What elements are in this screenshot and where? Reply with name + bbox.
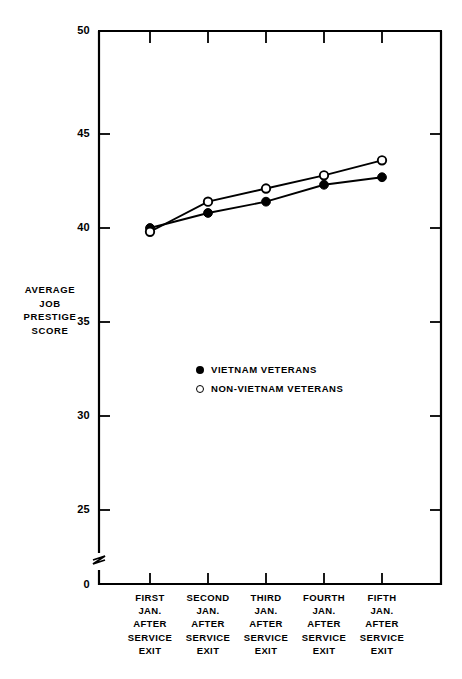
x-category-label-2-line-2: JAN. bbox=[176, 604, 240, 617]
data-point-marker bbox=[146, 228, 154, 236]
x-category-label-2-line-1: SECOND bbox=[176, 591, 240, 604]
x-category-label-1-line-3: AFTER bbox=[118, 617, 182, 630]
x-category-label-1-line-4: SERVICE bbox=[118, 631, 182, 644]
x-category-label-5-line-1: FIFTH bbox=[350, 591, 414, 604]
x-category-label-5-line-3: AFTER bbox=[350, 617, 414, 630]
data-point-marker bbox=[378, 173, 387, 182]
x-category-label-1-line-2: JAN. bbox=[118, 604, 182, 617]
legend-label-non-vietnam-veterans: NON-VIETNAM VETERANS bbox=[211, 383, 343, 394]
y-axis-ticks bbox=[99, 134, 110, 510]
x-category-label-3-line-5: EXIT bbox=[234, 644, 298, 657]
data-point-marker bbox=[204, 197, 212, 205]
chart-figure: AVERAGE JOB PRESTIGE SCORE 50 45 40 35 3… bbox=[0, 0, 462, 679]
x-axis-ticks-top bbox=[150, 31, 382, 43]
x-category-label-4: FOURTH JAN. AFTER SERVICE EXIT bbox=[292, 591, 356, 657]
x-category-label-5: FIFTH JAN. AFTER SERVICE EXIT bbox=[350, 591, 414, 657]
x-category-label-2: SECOND JAN. AFTER SERVICE EXIT bbox=[176, 591, 240, 657]
data-point-marker bbox=[320, 171, 328, 179]
x-category-label-2-line-3: AFTER bbox=[176, 617, 240, 630]
legend-label-vietnam-veterans: VIETNAM VETERANS bbox=[211, 364, 317, 375]
x-category-label-4-line-2: JAN. bbox=[292, 604, 356, 617]
x-category-label-5-line-4: SERVICE bbox=[350, 631, 414, 644]
x-category-label-5-line-2: JAN. bbox=[350, 604, 414, 617]
x-category-label-4-line-5: EXIT bbox=[292, 644, 356, 657]
plot-canvas bbox=[0, 0, 462, 679]
series-layer bbox=[146, 156, 387, 236]
x-category-label-1-line-1: FIRST bbox=[118, 591, 182, 604]
y-axis-ticks-right bbox=[430, 134, 441, 510]
x-category-label-4-line-4: SERVICE bbox=[292, 631, 356, 644]
x-category-label-3-line-3: AFTER bbox=[234, 617, 298, 630]
x-category-label-1-line-5: EXIT bbox=[118, 644, 182, 657]
x-category-label-3: THIRD JAN. AFTER SERVICE EXIT bbox=[234, 591, 298, 657]
legend-item-vietnam-veterans: VIETNAM VETERANS bbox=[196, 364, 317, 375]
x-category-label-4-line-1: FOURTH bbox=[292, 591, 356, 604]
legend-item-non-vietnam-veterans: NON-VIETNAM VETERANS bbox=[196, 383, 343, 394]
filled-circle-marker-icon bbox=[196, 366, 204, 374]
x-category-label-4-line-3: AFTER bbox=[292, 617, 356, 630]
open-circle-marker-icon bbox=[196, 385, 204, 393]
x-category-label-5-line-5: EXIT bbox=[350, 644, 414, 657]
data-point-marker bbox=[204, 209, 213, 218]
x-category-label-3-line-4: SERVICE bbox=[234, 631, 298, 644]
x-category-label-2-line-5: EXIT bbox=[176, 644, 240, 657]
plot-frame bbox=[98, 31, 442, 585]
data-point-marker bbox=[262, 197, 271, 206]
x-category-label-1: FIRST JAN. AFTER SERVICE EXIT bbox=[118, 591, 182, 657]
data-point-marker bbox=[378, 156, 386, 164]
x-category-label-3-line-1: THIRD bbox=[234, 591, 298, 604]
data-point-marker bbox=[320, 180, 329, 189]
y-axis-break-symbol bbox=[93, 556, 105, 564]
x-category-label-3-line-2: JAN. bbox=[234, 604, 298, 617]
series-line-2 bbox=[150, 160, 382, 231]
x-category-label-2-line-4: SERVICE bbox=[176, 631, 240, 644]
data-point-marker bbox=[262, 184, 270, 192]
